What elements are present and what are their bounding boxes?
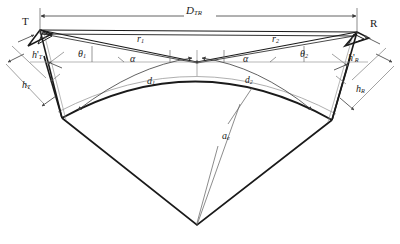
receiver-mast — [328, 32, 369, 122]
diagram-canvas — [0, 0, 400, 244]
label-d-1: d1 — [147, 76, 155, 86]
r2-sub: 2 — [276, 37, 279, 44]
label-r-2: r2 — [272, 34, 279, 44]
hprimeR-sub: R — [355, 56, 359, 63]
earth-surface-arc — [62, 81, 332, 120]
label-hprime-T: h'T — [32, 50, 42, 60]
label-r-1: r1 — [137, 34, 144, 44]
theta1-sub: 1 — [83, 52, 86, 59]
d1-sub: 1 — [152, 79, 155, 86]
earth-radius-line — [197, 94, 244, 225]
label-d-2: d2 — [245, 76, 253, 86]
label-theta-2: θ2 — [300, 49, 308, 59]
hT-sub: T — [27, 83, 30, 90]
label-alpha-left: α — [130, 54, 135, 64]
label-transmitter: T — [22, 16, 29, 27]
label-DTR-sub: TR — [194, 9, 202, 16]
label-alpha-right: α — [243, 54, 248, 64]
label-DTR-base: D — [186, 4, 194, 16]
direct-ray-path — [40, 30, 357, 36]
dimension-hprime-R — [332, 36, 386, 80]
label-a-e: ae — [222, 131, 230, 141]
label-baseline-distance: DTR — [186, 5, 202, 17]
label-h-T: hT — [22, 80, 30, 90]
label-h-R: hR — [356, 84, 365, 94]
label-receiver: R — [370, 18, 377, 29]
label-hprime-R: h'R — [348, 53, 359, 63]
ae-sub: e — [227, 134, 230, 141]
transmitter-mast — [28, 30, 66, 120]
hprimeT-sub: T — [39, 53, 42, 60]
propagation-geometry-figure: T R DTR h'T hT h'R hR θ1 θ2 α α r1 r2 d1… — [0, 0, 400, 244]
theta2-sub: 2 — [305, 52, 308, 59]
r1-sub: 1 — [141, 37, 144, 44]
label-theta-1: θ1 — [78, 49, 86, 59]
hR-sub: R — [361, 87, 365, 94]
d2-sub: 2 — [250, 79, 253, 85]
dimension-h-R — [336, 54, 394, 110]
